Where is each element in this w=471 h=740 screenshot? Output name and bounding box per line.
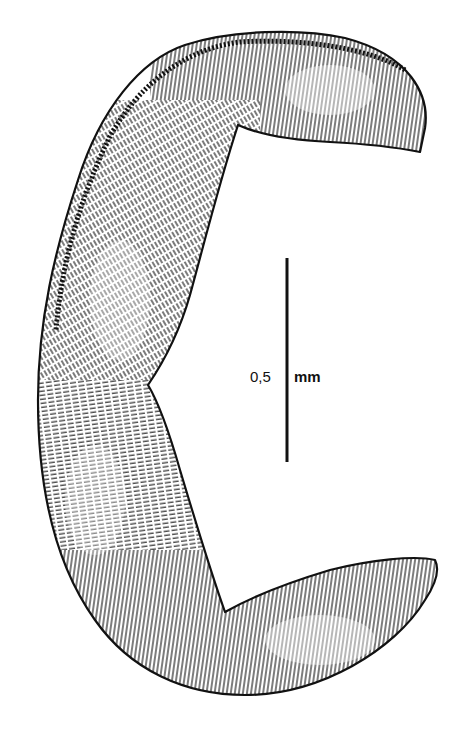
- scale-bar-value: 0,5: [250, 368, 271, 385]
- scale-bar-unit: mm: [294, 368, 321, 385]
- specimen-illustration: [0, 0, 471, 740]
